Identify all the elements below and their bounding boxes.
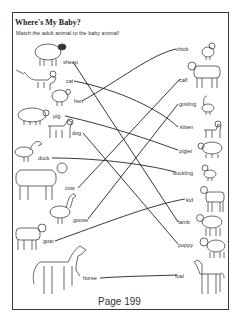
label-pig: pig	[53, 113, 60, 119]
label-piglet: piglet	[179, 148, 192, 154]
label-sheep: sheep	[63, 59, 78, 65]
line-sheep-lamb[interactable]	[73, 62, 178, 222]
line-horse-foal[interactable]	[100, 275, 177, 278]
label-duckling: duckling	[173, 170, 193, 176]
label-goat: goat	[43, 238, 54, 244]
label-dog: dog	[72, 130, 81, 136]
label-duck: duck	[38, 155, 50, 161]
line-cow-calf[interactable]	[78, 79, 180, 188]
label-goose: goose	[73, 217, 88, 223]
label-chick: chick	[176, 46, 189, 52]
label-cow: cow	[65, 185, 75, 191]
line-hen-chick[interactable]	[82, 49, 176, 101]
label-foal: foal	[175, 273, 184, 279]
label-kitten: kitten	[180, 124, 193, 130]
label-horse: horse	[83, 275, 97, 281]
label-calf: calf	[179, 77, 188, 83]
line-duck-duckling[interactable]	[52, 158, 175, 172]
line-pig-piglet[interactable]	[65, 116, 178, 150]
matching-lines	[0, 0, 239, 320]
page-number: Page 199	[0, 296, 239, 307]
label-cat: cat	[66, 78, 73, 84]
label-gosling: gosling	[179, 101, 196, 107]
label-kid: kid	[186, 197, 193, 203]
label-lamb: lamb	[178, 219, 190, 225]
label-hen: hen	[74, 98, 83, 104]
label-puppy: puppy	[178, 242, 193, 248]
